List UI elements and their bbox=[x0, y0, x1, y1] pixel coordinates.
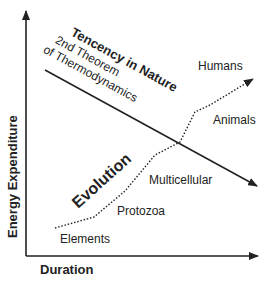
evolution-title: Evolution bbox=[69, 150, 135, 211]
stage-label: Multicellular bbox=[149, 173, 212, 187]
stage-label: Elements bbox=[60, 232, 110, 246]
x-axis-label: Duration bbox=[40, 262, 94, 277]
stage-label: Protozoa bbox=[117, 204, 165, 218]
tendency-line bbox=[45, 70, 257, 186]
evolution-diagram: Energy Expenditure Duration Tencency in … bbox=[0, 0, 272, 285]
stage-label: Animals bbox=[213, 113, 256, 127]
stage-label: Humans bbox=[198, 59, 243, 73]
y-axis-label: Energy Expenditure bbox=[5, 115, 20, 238]
